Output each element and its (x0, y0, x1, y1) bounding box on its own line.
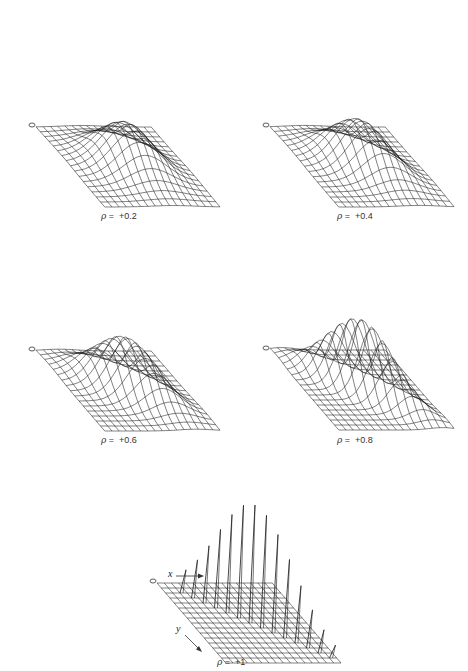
origin-marker (29, 123, 35, 127)
wireframe-surface (236, 226, 468, 456)
wireframe-surface (0, 226, 234, 456)
caption: ρ = +0.6 (101, 435, 137, 445)
surface-plot-rho-0-8: ρ = +0.8 (236, 226, 468, 456)
origin-marker (263, 346, 269, 350)
surface-plot-rho-0-6: ρ = +0.6 (0, 226, 234, 456)
caption: ρ = +0.8 (337, 435, 373, 445)
wireframe-surface (0, 0, 234, 230)
axis-arrows (118, 455, 352, 671)
surface-plot-rho-0-2: ρ = +0.2 (0, 0, 234, 230)
caption: ρ = +0.4 (337, 211, 373, 221)
wireframe-surface (236, 0, 468, 230)
surface-plot-rho-0-4: ρ = +0.4 (236, 0, 468, 230)
origin-marker (263, 123, 269, 127)
surface-plot-rho-1: x y ρ = +1 (118, 455, 352, 671)
caption: ρ = +1 (217, 657, 245, 667)
caption: ρ = +0.2 (101, 211, 137, 221)
origin-marker (29, 347, 35, 351)
